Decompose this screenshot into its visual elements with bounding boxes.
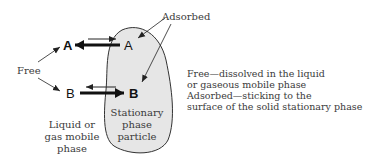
- free-label: Free: [17, 65, 41, 76]
- stationary-phase-label-line3: particle: [117, 131, 156, 142]
- species-a-free: A: [63, 38, 73, 53]
- mobile-phase-label-line2: gas mobile: [45, 131, 100, 142]
- stationary-phase-label-line2: phase: [122, 119, 152, 130]
- free-pointer-a: [38, 47, 60, 62]
- mobile-phase-label-line1: Liquid or: [49, 119, 95, 130]
- mobile-phase-label-line3: phase: [57, 143, 87, 154]
- species-b-free: B: [66, 86, 75, 101]
- legend-line-3: Adsorbed—sticking to the: [186, 90, 312, 101]
- free-pointer-b: [38, 78, 60, 91]
- adsorption-diagram: A A B B Adsorbed Free Liquid or gas mobi…: [0, 0, 374, 162]
- stationary-phase-label-line1: Stationary: [111, 107, 164, 118]
- legend-line-2: or gaseous mobile phase: [187, 79, 307, 90]
- species-a-adsorbed: A: [124, 38, 133, 53]
- legend-line-1: Free—dissolved in the liquid: [187, 68, 325, 79]
- species-b-adsorbed: B: [129, 86, 138, 101]
- legend-line-4: surface of the solid stationary phase: [187, 101, 363, 112]
- adsorbed-label: Adsorbed: [161, 11, 211, 22]
